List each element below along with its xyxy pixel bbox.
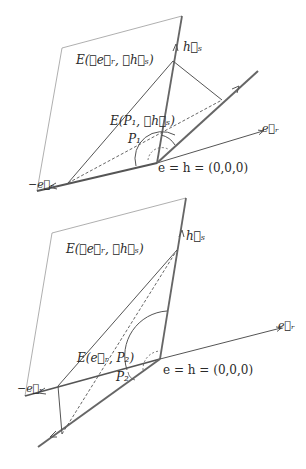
bottom-diagram: E(∡e⃗ᵣ, ∡h⃗ₛ) h⃗ₛ E(e⃗ᵣ, P₂) P₂ e⃗ᵣ −e⃗ᵣ… <box>17 198 295 447</box>
subplane-label: E(P₁, ∡h⃗ₛ) <box>109 114 175 128</box>
axis-hs-label: h⃗ₛ <box>186 229 205 243</box>
top-diagram: E(∡e⃗ᵣ, ∡h⃗ₛ) h⃗ₛ E(P₁, ∡h⃗ₛ) P₁ e⃗ᵣ −e⃗… <box>28 16 279 191</box>
axis-er-label: e⃗ᵣ <box>262 122 279 135</box>
triangle-dashed-diagonal <box>62 250 177 434</box>
axis-hs <box>160 198 186 359</box>
diagram-canvas: E(∡e⃗ᵣ, ∡h⃗ₛ) h⃗ₛ E(P₁, ∡h⃗ₛ) P₁ e⃗ᵣ −e⃗… <box>0 0 306 469</box>
triangle-vertical-edge <box>58 386 62 434</box>
axis-neg-er-label: −e⃗ᵣ <box>28 178 54 191</box>
plane-outline <box>25 198 186 396</box>
angle-arc-right <box>161 135 175 145</box>
plane-label: E(∡e⃗ᵣ, ∡h⃗ₛ) <box>65 242 144 256</box>
projection-line <box>38 359 160 447</box>
axis-neg-er-label: −e⃗ᵣ <box>17 382 43 395</box>
subplane-label: E(e⃗ᵣ, P₂) <box>76 351 134 365</box>
plane-label: E(∡e⃗ᵣ, ∡h⃗ₛ) <box>75 53 154 67</box>
axis-er-label: e⃗ᵣ <box>278 319 295 332</box>
axis-neg-er <box>37 163 157 191</box>
axis-er <box>157 131 263 163</box>
axis-hs <box>157 16 182 163</box>
triangle-right-edge <box>173 61 222 100</box>
origin-label: e = h = (0,0,0) <box>158 161 248 175</box>
point-label: P₂ <box>115 370 129 384</box>
triangle-left-edge <box>58 250 177 386</box>
axis-hs-label: h⃗ₛ <box>183 40 202 54</box>
axis-er <box>160 328 281 359</box>
point-label: P₁ <box>127 132 141 146</box>
origin-label: e = h = (0,0,0) <box>163 363 253 377</box>
